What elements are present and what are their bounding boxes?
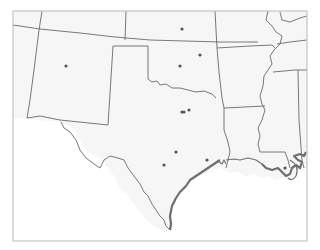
fort-worth-marker[interactable]: [187, 108, 190, 111]
dallas-marker-2[interactable]: [182, 110, 185, 113]
austin-marker[interactable]: [174, 150, 177, 153]
land-layer: [13, 11, 307, 232]
oklahoma-city-marker[interactable]: [178, 64, 181, 67]
kansas-marker[interactable]: [180, 27, 183, 30]
map-container: [0, 0, 320, 250]
land-mass: [13, 11, 307, 232]
tulsa-marker[interactable]: [198, 53, 201, 56]
state-map[interactable]: [0, 0, 320, 250]
houston-marker[interactable]: [205, 158, 208, 161]
new-orleans-marker[interactable]: [283, 166, 286, 169]
san-antonio-marker[interactable]: [162, 163, 165, 166]
albuquerque-marker[interactable]: [64, 64, 67, 67]
